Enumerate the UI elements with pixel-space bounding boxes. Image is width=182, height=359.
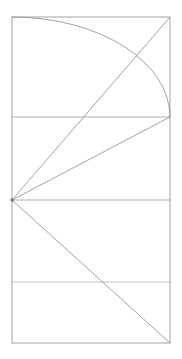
vertex-point [11, 199, 14, 202]
geometric-line-drawing [0, 0, 182, 359]
outer-rectangle [12, 17, 170, 343]
ray-to-right-upper [12, 117, 170, 200]
quarter-arc [12, 17, 170, 117]
figure-canvas [0, 0, 182, 359]
ray-to-bottom-right [12, 200, 170, 343]
ray-to-top-right [12, 17, 170, 200]
